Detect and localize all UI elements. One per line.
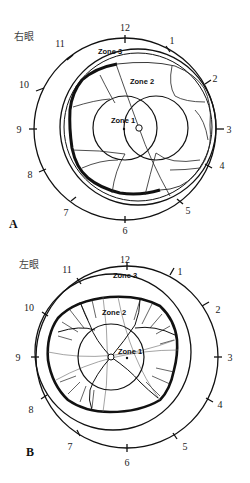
clock-12: 12 xyxy=(120,254,130,265)
clock-8: 8 xyxy=(28,169,33,180)
zone3-label: Zone 3 xyxy=(98,47,122,56)
eye-label-right: 右眼 xyxy=(14,30,34,42)
clock-5: 5 xyxy=(183,441,188,452)
panel-letter-a: A xyxy=(9,217,18,231)
clock-11: 11 xyxy=(62,264,72,275)
clock-2: 2 xyxy=(213,73,218,84)
clock-1: 1 xyxy=(178,266,183,277)
clock-10: 10 xyxy=(19,79,29,90)
zone3-label: Zone 3 xyxy=(113,271,137,280)
clock-3: 3 xyxy=(227,124,232,135)
clock-9: 9 xyxy=(17,124,22,135)
zone2-label: Zone 2 xyxy=(130,77,154,86)
panel-a-right-eye: 12 1 2 3 4 5 6 7 8 9 10 11 Zone 3 Zone 2… xyxy=(0,0,250,240)
zone1-right-circle xyxy=(124,96,188,160)
zone1-label: Zone 1 xyxy=(111,116,135,125)
clock-12: 12 xyxy=(120,22,130,33)
clock-10: 10 xyxy=(24,302,34,313)
clock-6: 6 xyxy=(125,457,130,468)
clock-4: 4 xyxy=(220,160,225,171)
panel-b-left-eye: 12 1 2 3 4 5 6 7 8 9 10 11 Zone 3 Zone 2… xyxy=(0,240,250,483)
clock-9: 9 xyxy=(16,352,21,363)
clock-2: 2 xyxy=(216,304,221,315)
eye-label-left: 左眼 xyxy=(19,258,39,270)
clock-8: 8 xyxy=(29,404,34,415)
clock-7: 7 xyxy=(64,207,69,218)
clock-11: 11 xyxy=(55,38,65,49)
clock-6: 6 xyxy=(123,225,128,236)
zone2-label: Zone 2 xyxy=(102,308,126,317)
left-eye-retina-diagram: 12 1 2 3 4 5 6 7 8 9 10 11 Zone 3 Zone 2… xyxy=(0,240,250,483)
panel-letter-b: B xyxy=(26,445,34,459)
clock-4: 4 xyxy=(218,399,223,410)
clock-7: 7 xyxy=(68,441,73,452)
zone1-label: Zone 1 xyxy=(118,347,142,356)
optic-disc xyxy=(108,354,114,360)
fovea-dot xyxy=(126,357,128,359)
clock-5: 5 xyxy=(186,205,191,216)
clock-3: 3 xyxy=(228,352,233,363)
fovea-dot xyxy=(123,128,125,130)
right-eye-retina-diagram: 12 1 2 3 4 5 6 7 8 9 10 11 Zone 3 Zone 2… xyxy=(0,0,250,240)
optic-disc xyxy=(136,125,142,131)
clock-1: 1 xyxy=(170,35,175,46)
